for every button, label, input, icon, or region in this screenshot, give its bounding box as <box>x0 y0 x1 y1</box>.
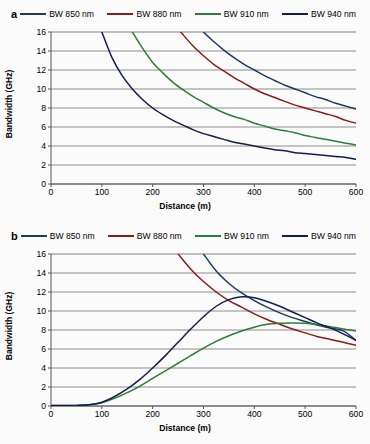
x-tick-label: 300 <box>196 187 210 197</box>
panel-letter-b: b <box>11 231 18 242</box>
legend-swatch-line-icon <box>21 235 47 237</box>
legend-item-bw-880-nm[interactable]: BW 880 nm <box>107 10 181 19</box>
x-tick-label: 100 <box>95 187 109 197</box>
series-group <box>102 24 356 159</box>
series-canvas-b <box>0 246 370 420</box>
legend-swatch-line-icon <box>282 235 308 237</box>
legend-a: a BW 850 nmBW 880 nmBW 910 nmBW 940 nm <box>0 4 370 24</box>
legend-item-bw-850-nm[interactable]: BW 850 nm <box>21 232 95 241</box>
chart-svg-a <box>0 24 370 194</box>
series-line-bw-940-nm <box>51 297 356 406</box>
legend-label: BW 880 nm <box>136 10 181 19</box>
series-line-bw-910-nm <box>132 32 356 145</box>
legend-item-bw-940-nm[interactable]: BW 940 nm <box>282 10 356 19</box>
x-tick-label: 0 <box>49 187 54 197</box>
x-axis-ticks-a: 0100200300400500600 <box>46 187 356 201</box>
legend-item-bw-850-nm[interactable]: BW 850 nm <box>20 10 94 19</box>
x-tick-label: 200 <box>145 409 159 419</box>
chart-panel-b: b BW 850 nmBW 880 nmBW 910 nmBW 940 nm B… <box>0 222 370 444</box>
x-tick-label: 0 <box>49 409 54 419</box>
legend-items-a: BW 850 nmBW 880 nmBW 910 nmBW 940 nm <box>20 10 370 19</box>
legend-label: BW 940 nm <box>311 10 356 19</box>
x-tick-label: 400 <box>247 187 261 197</box>
x-tick-label: 300 <box>196 409 210 419</box>
legend-label: BW 910 nm <box>224 10 269 19</box>
figure-container: a BW 850 nmBW 880 nmBW 910 nmBW 940 nm B… <box>0 0 370 444</box>
legend-swatch-line-icon <box>107 13 133 15</box>
panel-letter-a: a <box>11 9 17 20</box>
legend-label: BW 880 nm <box>137 232 182 241</box>
x-tick-label: 500 <box>298 187 312 197</box>
legend-label: BW 850 nm <box>49 10 94 19</box>
legend-item-bw-910-nm[interactable]: BW 910 nm <box>195 10 269 19</box>
legend-swatch-line-icon <box>195 13 221 15</box>
legend-label: BW 940 nm <box>311 232 356 241</box>
x-axis-title-b: Distance (m) <box>0 423 370 433</box>
x-tick-label: 600 <box>349 409 363 419</box>
legend-item-bw-880-nm[interactable]: BW 880 nm <box>108 232 182 241</box>
plot-area-a: Bandwidth (GHz) 0246810121416 0100200300… <box>0 24 370 222</box>
x-axis-ticks-b: 0100200300400500600 <box>46 409 356 423</box>
legend-swatch-line-icon <box>20 13 46 15</box>
series-line-bw-910-nm <box>51 323 356 406</box>
legend-label: BW 910 nm <box>224 232 269 241</box>
series-line-bw-880-nm <box>178 254 356 345</box>
legend-item-bw-910-nm[interactable]: BW 910 nm <box>195 232 269 241</box>
chart-panel-a: a BW 850 nmBW 880 nmBW 910 nmBW 940 nm B… <box>0 0 370 222</box>
x-tick-label: 200 <box>145 187 159 197</box>
legend-items-b: BW 850 nmBW 880 nmBW 910 nmBW 940 nm <box>21 232 370 241</box>
x-axis-title-a: Distance (m) <box>0 201 370 211</box>
x-tick-label: 500 <box>298 409 312 419</box>
legend-item-bw-940-nm[interactable]: BW 940 nm <box>282 232 356 241</box>
legend-swatch-line-icon <box>108 235 134 237</box>
legend-swatch-line-icon <box>195 235 221 237</box>
plot-area-b: Bandwidth (GHz) 0246810121416 0100200300… <box>0 246 370 444</box>
x-tick-label: 100 <box>95 409 109 419</box>
x-tick-label: 400 <box>247 409 261 419</box>
series-canvas-a <box>0 24 370 198</box>
x-tick-label: 600 <box>349 187 363 197</box>
legend-label: BW 850 nm <box>50 232 95 241</box>
chart-svg-b <box>0 246 370 416</box>
legend-b: b BW 850 nmBW 880 nmBW 910 nmBW 940 nm <box>0 226 370 246</box>
legend-swatch-line-icon <box>282 13 308 15</box>
